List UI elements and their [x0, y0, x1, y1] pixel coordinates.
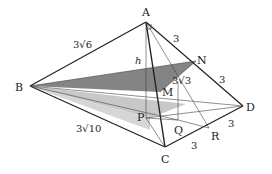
length-CR: 3	[191, 140, 197, 151]
label-C: C	[161, 153, 169, 166]
label-Q: Q	[174, 124, 183, 137]
label-R: R	[211, 130, 220, 143]
height-label: h	[135, 55, 141, 66]
length-ND: 3	[219, 74, 225, 85]
label-P: P	[137, 111, 145, 124]
label-N: N	[197, 54, 207, 67]
length-AN: 3	[173, 33, 179, 44]
edge-AD	[146, 22, 243, 106]
length-NM: 3√3	[172, 75, 191, 86]
length-AB: 3√6	[73, 39, 92, 50]
label-M: M	[162, 86, 173, 99]
label-A: A	[141, 6, 151, 19]
length-RD: 3	[228, 118, 234, 129]
label-B: B	[15, 81, 23, 94]
label-D: D	[246, 101, 255, 114]
length-BC: 3√10	[76, 123, 101, 134]
pyramid-diagram: A B C D N M P Q R 3√6 3√10 3 3 3 3 3√3 h	[0, 0, 272, 174]
